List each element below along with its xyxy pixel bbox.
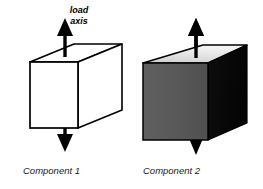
- load-axis-label-line2: axis: [70, 16, 88, 26]
- component-2-caption: Component 2: [143, 165, 201, 176]
- component-1-group: [30, 18, 122, 152]
- diagram-canvas: load axis Component 1 Component 2: [0, 0, 263, 189]
- load-axis-label-line1: load: [70, 5, 89, 15]
- load-axis-diagram: load axis Component 1 Component 2: [0, 0, 263, 189]
- component-1-caption: Component 1: [23, 165, 80, 176]
- component-2-front-face: [143, 63, 208, 140]
- component-1-front-face: [30, 62, 78, 128]
- component-1-bottom-arrow: [57, 128, 73, 152]
- component-2-group: [143, 18, 247, 155]
